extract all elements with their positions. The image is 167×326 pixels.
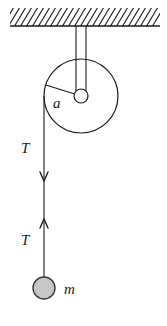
pulley-diagram-figure: a T T m bbox=[0, 0, 167, 326]
hanging-mass-ball bbox=[33, 277, 55, 299]
ceiling-hatching bbox=[2, 7, 164, 27]
tension-label-upper: T bbox=[21, 140, 31, 156]
mass-label: m bbox=[64, 281, 75, 297]
pulley-axle-hub bbox=[74, 89, 88, 103]
pulley-support-bracket bbox=[76, 26, 86, 99]
diagram-canvas: a T T m bbox=[0, 0, 167, 326]
tension-label-lower: T bbox=[21, 232, 31, 248]
radius-label: a bbox=[53, 95, 61, 111]
